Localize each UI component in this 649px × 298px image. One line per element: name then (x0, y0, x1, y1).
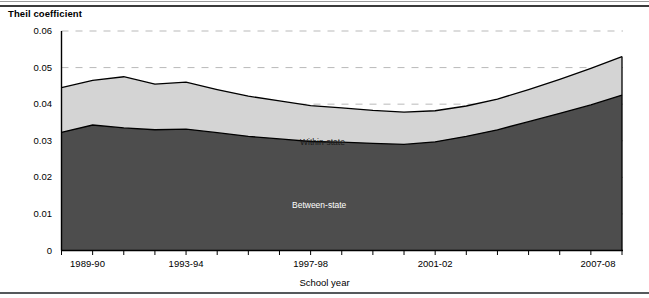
within-state-label: Within-state (300, 137, 345, 147)
y-tick-label-0.03: 0.03 (6, 136, 52, 146)
x-tick-label-1989-90: 1989-90 (56, 259, 120, 269)
chart-plot-area (0, 0, 649, 298)
y-tick-label-0.01: 0.01 (6, 209, 52, 219)
bottom-rule (0, 292, 649, 294)
x-tick-label-2007-08: 2007-08 (566, 259, 630, 269)
y-tick-label-0.06: 0.06 (6, 26, 52, 36)
y-tick-label-0.04: 0.04 (6, 99, 52, 109)
x-tick-label-2001-02: 2001-02 (403, 259, 467, 269)
y-tick-label-0: 0 (6, 246, 52, 256)
x-axis-title: School year (0, 277, 649, 288)
x-tick-label-1993-94: 1993-94 (154, 259, 218, 269)
x-tick-label-1997-98: 1997-98 (279, 259, 343, 269)
between-state-label: Between-state (292, 200, 346, 210)
figure-container: Theil coefficient 00.010.020.030.040.050… (0, 0, 649, 298)
y-tick-label-0.02: 0.02 (6, 172, 52, 182)
y-tick-label-0.05: 0.05 (6, 63, 52, 73)
